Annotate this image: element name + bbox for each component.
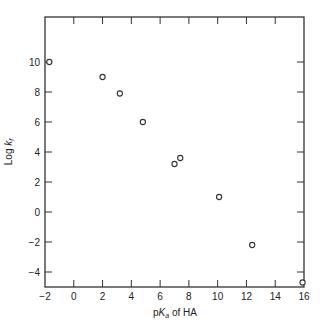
y-tick-label: 2 [34,177,40,188]
x-tick-label: 2 [100,291,106,302]
x-tick-label: 4 [129,291,135,302]
data-point [217,194,222,199]
data-points [47,59,305,285]
data-point [47,59,52,64]
x-tick-label: −2 [39,291,51,302]
x-tick-label: 16 [298,291,310,302]
plot-frame [45,17,304,287]
x-tick-label: 0 [71,291,77,302]
y-tick-label: −4 [29,267,41,278]
data-point [100,74,105,79]
plot-border [45,17,304,287]
y-axis-ticks: −4−20246810 [29,57,304,278]
data-point [117,91,122,96]
x-axis-ticks: −20246810121416 [39,17,310,302]
x-axis-title: pKa of HA [153,307,197,319]
x-tick-label: 12 [241,291,253,302]
y-tick-label: 4 [34,147,40,158]
y-tick-label: 8 [34,87,40,98]
x-tick-label: 8 [186,291,192,302]
data-point [178,155,183,160]
data-point [172,161,177,166]
y-tick-label: 6 [34,117,40,128]
y-tick-label: −2 [29,237,41,248]
x-tick-label: 14 [270,291,282,302]
data-point [140,119,145,124]
y-axis-title: Log kf [3,138,15,165]
scatter-chart: −20246810121416 −4−20246810 pKa of HA Lo… [0,0,321,326]
x-tick-label: 6 [157,291,163,302]
data-point [250,242,255,247]
data-point [300,280,305,285]
x-tick-label: 10 [212,291,224,302]
y-tick-label: 10 [29,57,41,68]
y-tick-label: 0 [34,207,40,218]
